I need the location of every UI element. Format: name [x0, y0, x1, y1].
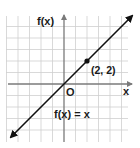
function-graph: f(x) x O (2, 2) f(x) = x — [0, 0, 140, 148]
y-axis-label: f(x) — [37, 15, 54, 27]
point-marker — [84, 58, 89, 63]
x-axis-label: x — [123, 85, 130, 97]
point-label: (2, 2) — [91, 64, 116, 76]
equation-label: f(x) = x — [54, 108, 91, 120]
origin-label: O — [66, 86, 75, 98]
